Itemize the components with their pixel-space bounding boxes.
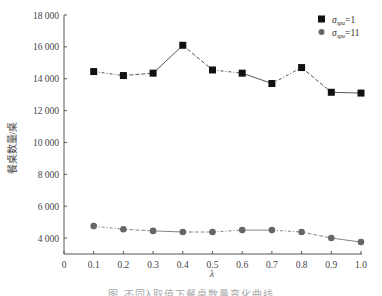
line-chart: 4 0006 0008 00010 00012 00014 00016 0001… — [0, 0, 382, 296]
y-tick-label: 4 000 — [38, 234, 60, 244]
axes — [64, 15, 362, 254]
circle-marker — [298, 229, 305, 236]
legend-label: σspa=11 — [332, 28, 360, 40]
circle-marker — [120, 226, 127, 233]
y-tick-label: 8 000 — [38, 170, 60, 180]
series-group — [90, 42, 364, 246]
x-tick-label: 1.0 — [355, 260, 367, 270]
circle-marker — [90, 223, 97, 230]
circle-marker — [180, 229, 187, 236]
figure-caption: 图 不同λ取值下餐桌数量变化曲线 — [0, 286, 382, 296]
legend: σspa=1σspa=11 — [318, 15, 360, 40]
x-tick-label: 0.2 — [117, 260, 129, 270]
x-tick-label: 0.8 — [296, 260, 308, 270]
square-marker — [150, 70, 157, 77]
y-tick-label: 12 000 — [33, 106, 59, 116]
legend-label: σspa=1 — [332, 15, 355, 27]
y-tick-label: 18 000 — [33, 11, 59, 21]
y-axis-ticks: 4 0006 0008 00010 00012 00014 00016 0001… — [33, 11, 67, 244]
square-marker — [239, 70, 246, 77]
x-axis-title: λ — [209, 268, 215, 279]
circle-marker — [358, 239, 365, 246]
square-marker — [209, 66, 216, 73]
circle-marker — [269, 227, 276, 234]
series-sigma-11 — [90, 223, 364, 246]
y-tick-label: 14 000 — [33, 74, 59, 84]
x-tick-label: 0.7 — [266, 260, 278, 270]
x-tick-label: 0 — [62, 260, 67, 270]
x-tick-label: 0.3 — [147, 260, 159, 270]
x-tick-label: 0.1 — [88, 260, 100, 270]
y-tick-label: 6 000 — [38, 202, 60, 212]
x-tick-label: 0.6 — [236, 260, 248, 270]
x-tick-label: 0.9 — [325, 260, 337, 270]
legend-square-icon — [318, 16, 325, 23]
x-tick-label: 0.4 — [177, 260, 189, 270]
square-marker — [179, 42, 186, 49]
square-marker — [268, 80, 275, 87]
y-tick-label: 10 000 — [33, 138, 59, 148]
square-marker — [358, 90, 365, 97]
square-marker — [90, 68, 97, 75]
circle-marker — [150, 228, 157, 235]
circle-marker — [328, 235, 335, 242]
y-tick-label: 16 000 — [33, 42, 59, 52]
square-marker — [328, 89, 335, 96]
y-axis-title: 餐桌数量/桌 — [6, 122, 18, 175]
square-marker — [120, 72, 127, 79]
circle-marker — [209, 229, 216, 236]
square-marker — [298, 64, 305, 71]
series-sigma-1 — [90, 42, 364, 97]
legend-circle-icon — [319, 29, 325, 35]
circle-marker — [239, 227, 246, 234]
